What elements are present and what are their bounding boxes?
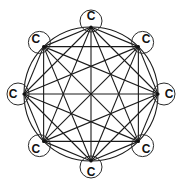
node-hub-dot: [22, 92, 25, 95]
node-top-right: C: [132, 31, 154, 53]
node-hub-dot: [42, 140, 45, 143]
node-bottom-right: C: [132, 135, 154, 157]
node-label: C: [32, 142, 41, 156]
node-bottom: C: [80, 156, 102, 179]
node-label: C: [165, 87, 174, 101]
node-hub-dot: [156, 92, 159, 95]
node-hub-dot: [137, 140, 140, 143]
node-hub-dot: [89, 25, 92, 28]
node-label: C: [9, 87, 18, 101]
node-hub-dot: [137, 45, 140, 48]
node-hub-dot: [89, 159, 92, 162]
node-label: C: [32, 32, 41, 46]
node-label: C: [87, 165, 96, 179]
complete-graph-diagram: CCCCCCCC: [0, 0, 181, 187]
node-top-left: C: [28, 31, 50, 53]
node-bottom-left: C: [28, 135, 50, 157]
node-label: C: [142, 32, 151, 46]
node-label: C: [142, 142, 151, 156]
node-label: C: [87, 9, 96, 23]
node-top: C: [80, 9, 102, 32]
node-hub-dot: [42, 45, 45, 48]
